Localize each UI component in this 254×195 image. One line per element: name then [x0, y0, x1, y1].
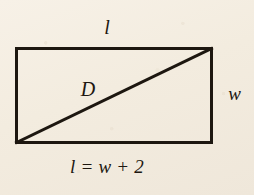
label-equation: l = w + 2 — [0, 157, 214, 176]
label-length-top: l — [0, 17, 214, 37]
label-diagonal: D — [72, 79, 104, 99]
geometry-figure: l w D l = w + 2 — [0, 0, 254, 195]
label-width-right: w — [215, 84, 254, 103]
diagonal-line — [17, 49, 212, 143]
